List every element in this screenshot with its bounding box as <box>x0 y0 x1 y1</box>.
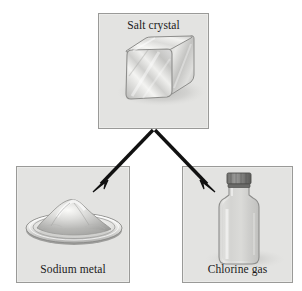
panel-chlorine-gas: Chlorine gas <box>182 166 293 283</box>
panel-chlorine-gas-caption: Chlorine gas <box>183 263 292 275</box>
panel-sodium-metal-caption: Sodium metal <box>17 263 129 275</box>
salt-crystal-illustration <box>99 14 208 128</box>
panel-salt-crystal: Salt crystal <box>98 13 209 129</box>
figure-root: Salt crystal <box>0 0 302 291</box>
panel-sodium-metal: Sodium metal <box>16 166 130 283</box>
panel-salt-crystal-caption: Salt crystal <box>99 19 208 31</box>
